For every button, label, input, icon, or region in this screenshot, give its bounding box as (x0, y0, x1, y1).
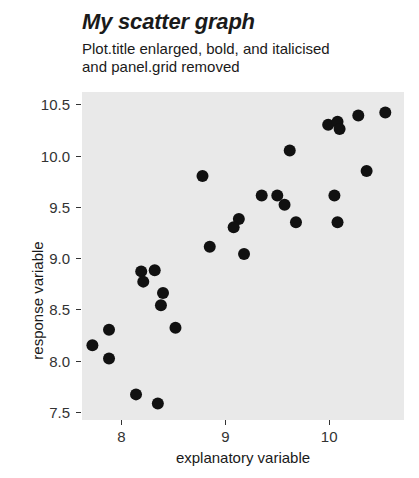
y-tick-label: 7.5 (10, 403, 70, 420)
data-point (149, 264, 161, 276)
data-point (196, 170, 208, 182)
y-tick-mark (76, 104, 81, 105)
data-point (135, 265, 147, 277)
y-tick-mark (76, 309, 81, 310)
data-point (238, 248, 250, 260)
data-point (290, 216, 302, 228)
x-tick-mark (329, 420, 330, 425)
y-axis-title: response variable (29, 201, 46, 401)
data-point (332, 216, 344, 228)
data-point (361, 165, 373, 177)
data-point (284, 144, 296, 156)
y-tick-mark (76, 412, 81, 413)
data-point (328, 190, 340, 202)
scatter-chart: My scatter graph Plot.title enlarged, bo… (0, 0, 419, 478)
data-point (103, 353, 115, 365)
data-point (155, 299, 167, 311)
chart-title: My scatter graph (82, 9, 255, 35)
data-point (379, 107, 391, 119)
data-point (352, 110, 364, 122)
data-point (157, 287, 169, 299)
chart-subtitle: Plot.title enlarged, bold, and italicise… (82, 40, 330, 76)
x-axis: 8910 (82, 420, 404, 450)
data-point (86, 339, 98, 351)
data-point (204, 241, 216, 253)
x-tick-mark (121, 420, 122, 425)
y-tick-mark (76, 361, 81, 362)
data-point (228, 221, 240, 233)
y-tick-mark (76, 207, 81, 208)
x-tick-label: 10 (321, 428, 338, 445)
data-point (130, 388, 142, 400)
data-point (256, 190, 268, 202)
data-point (169, 322, 181, 334)
x-tick-mark (225, 420, 226, 425)
x-tick-label: 8 (117, 428, 125, 445)
y-tick-mark (76, 156, 81, 157)
data-point (334, 123, 346, 135)
y-axis: 7.58.08.59.09.510.010.5 response variabl… (0, 92, 82, 420)
data-point (152, 398, 164, 410)
data-points-layer (82, 92, 404, 420)
y-tick-label: 10.5 (10, 96, 70, 113)
data-point (137, 276, 149, 288)
y-tick-label: 10.0 (10, 147, 70, 164)
y-tick-mark (76, 258, 81, 259)
data-point (103, 324, 115, 336)
x-tick-label: 9 (221, 428, 229, 445)
plot-panel (82, 92, 404, 420)
data-point (279, 199, 291, 211)
x-axis-title: explanatory variable (82, 449, 404, 466)
